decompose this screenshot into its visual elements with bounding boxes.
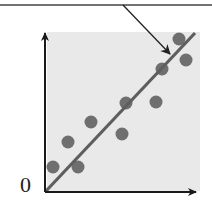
scatter-figure (0, 0, 212, 216)
data-point (180, 54, 193, 67)
data-point (85, 116, 98, 129)
data-point (150, 96, 163, 109)
origin-label: 0 (20, 174, 31, 196)
data-point (47, 161, 60, 174)
data-point (116, 128, 129, 141)
data-point (62, 136, 75, 149)
